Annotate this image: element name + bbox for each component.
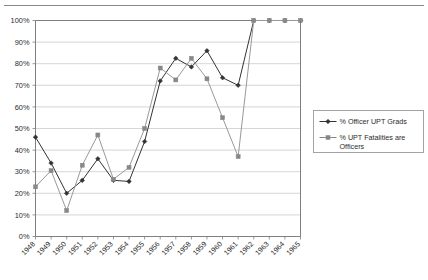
y-tick-label: 30% [15,167,30,176]
x-tick-label: 1960 [206,240,224,258]
data-point-marker [96,133,100,137]
x-tick-label: 1958 [175,240,193,258]
line-chart: 0%10%20%30%40%50%60%70%80%90%100% 194819… [0,0,428,280]
series-line [36,21,301,211]
chart-legend: % Officer UPT Grads% UPT Fatalities areO… [314,111,424,153]
y-tick-label: 70% [15,81,30,90]
x-tick-label: 1956 [144,240,162,258]
legend-label: Officers [340,142,365,151]
data-point-marker [33,135,38,140]
data-point-marker [220,75,225,80]
y-tick-label: 40% [15,146,30,155]
x-tick-label: 1953 [97,240,115,258]
x-tick-label: 1959 [191,240,209,258]
data-point-marker [267,18,271,22]
data-point-marker [127,165,131,169]
data-point-marker [142,139,147,144]
data-point-marker [49,169,53,173]
x-tick-label: 1949 [35,240,53,258]
y-tick-label: 0% [19,232,30,241]
legend-label: % Officer UPT Grads [340,117,408,126]
x-tick-label: 1948 [19,240,37,258]
x-tick-label: 1957 [160,240,178,258]
x-tick-label: 1961 [222,240,240,258]
data-series [33,18,302,212]
data-point-marker [236,83,241,88]
data-point-marker [283,18,287,22]
data-point-marker [33,185,37,189]
data-point-marker [158,66,162,70]
y-tick-label: 90% [15,38,30,47]
x-axis-tick-labels: 1948194919501951195219531954195519561957… [19,237,302,258]
data-point-marker [221,116,225,120]
y-tick-label: 50% [15,124,30,133]
data-point-marker [205,77,209,81]
data-point-marker [49,161,54,166]
y-axis-tick-labels: 0%10%20%30%40%50%60%70%80%90%100% [11,16,36,241]
y-tick-label: 60% [15,103,30,112]
y-tick-label: 20% [15,189,30,198]
x-tick-label: 1950 [50,240,68,258]
data-point-marker [236,155,240,159]
y-tick-label: 80% [15,59,30,68]
data-point-marker [111,177,115,181]
data-point-marker [65,209,69,213]
x-tick-label: 1962 [237,240,255,258]
legend-marker-icon [326,135,330,139]
x-tick-label: 1954 [113,240,131,258]
data-point-marker [298,18,302,22]
data-point-marker [80,163,84,167]
data-point-marker [143,126,147,130]
x-tick-label: 1951 [66,240,84,258]
data-point-marker [127,179,132,184]
y-tick-label: 100% [11,16,30,25]
header-divider [4,5,424,6]
chart-figure: 0%10%20%30%40%50%60%70%80%90%100% 194819… [0,0,428,280]
data-point-marker [189,56,193,60]
gridlines [36,21,301,237]
data-point-marker [174,78,178,82]
x-tick-label: 1952 [82,240,100,258]
data-series-layer [33,18,303,212]
x-tick-label: 1955 [128,240,146,258]
x-tick-label: 1964 [269,240,287,258]
data-point-marker [252,18,256,22]
x-tick-label: 1965 [284,240,302,258]
y-tick-label: 10% [15,211,30,220]
x-tick-label: 1963 [253,240,271,258]
